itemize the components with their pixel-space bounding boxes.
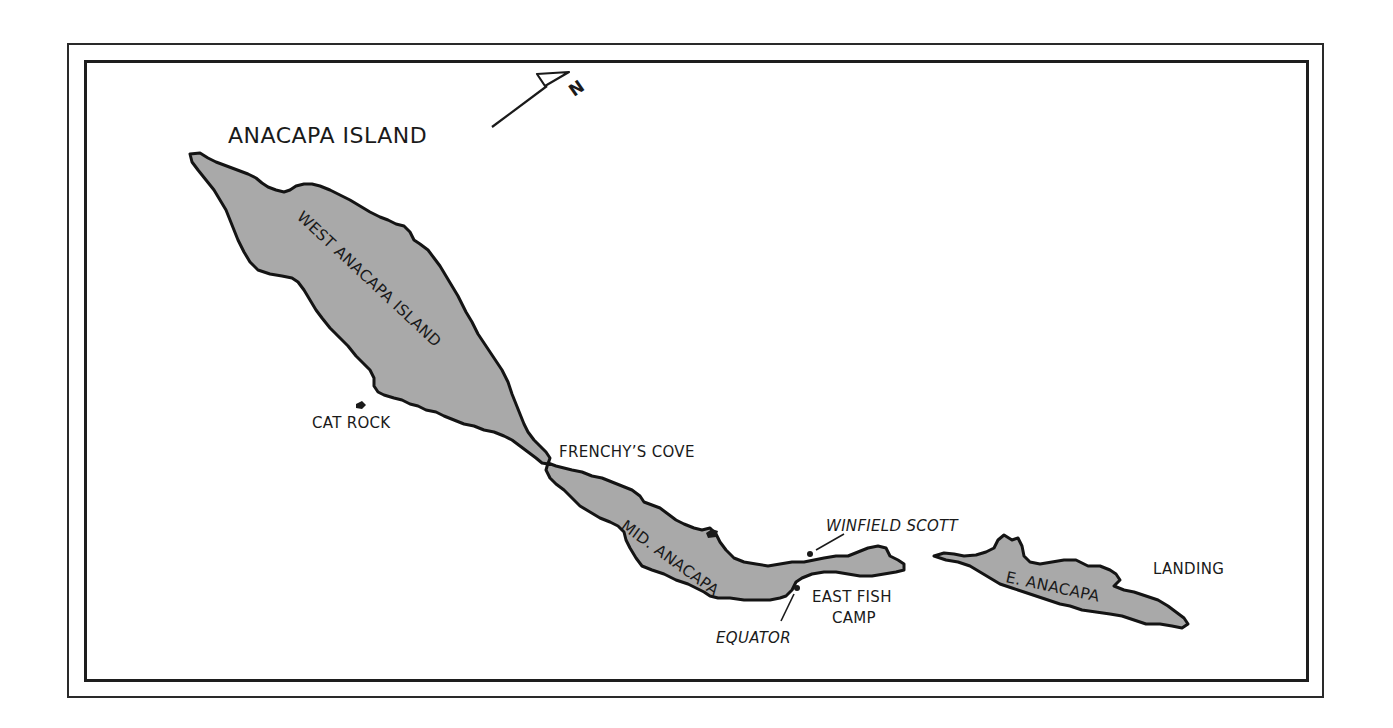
cat-rock-shape bbox=[356, 401, 366, 409]
label-winfield-scott: WINFIELD SCOTT bbox=[826, 517, 960, 535]
label-east-fish-camp-line2: CAMP bbox=[832, 609, 876, 627]
anacapa-map: ANACAPA ISLAND N WEST ANACAPA ISLAND MID… bbox=[0, 0, 1393, 728]
label-equator: EQUATOR bbox=[716, 629, 791, 647]
label-frenchys-cove: FRENCHY’S COVE bbox=[559, 443, 695, 461]
label-landing: LANDING bbox=[1153, 560, 1224, 578]
equator-dot bbox=[794, 585, 800, 591]
north-label: N bbox=[565, 76, 588, 101]
north-arrow-icon: N bbox=[492, 72, 588, 127]
winfield-scott-leader bbox=[816, 534, 844, 550]
winfield-scott-dot bbox=[807, 551, 813, 557]
label-cat-rock: CAT ROCK bbox=[312, 414, 391, 432]
label-east-fish-camp-line1: EAST FISH bbox=[812, 588, 892, 606]
winfield-scott-marker bbox=[807, 534, 844, 557]
map-title: ANACAPA ISLAND bbox=[228, 123, 427, 148]
